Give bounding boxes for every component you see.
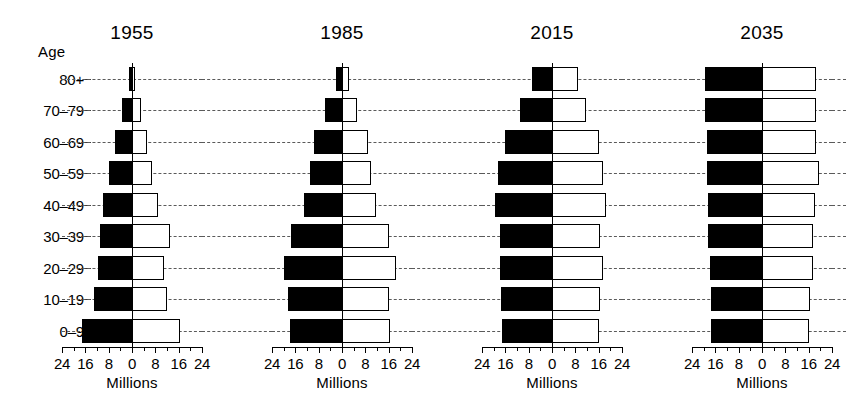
- x-axis-title: Millions: [482, 374, 622, 391]
- bar-male: [82, 319, 132, 343]
- bar-female: [762, 256, 813, 280]
- bar-male: [291, 224, 342, 248]
- x-tick-major: [739, 347, 740, 353]
- x-tick-minor: [330, 347, 331, 351]
- bar-male: [284, 256, 342, 280]
- bar-male: [708, 224, 762, 248]
- pyramid-panel-2015: 201524168081624Millions: [482, 0, 622, 409]
- bar-male: [498, 161, 552, 185]
- bar-female: [552, 98, 586, 122]
- bar-male: [500, 256, 553, 280]
- x-axis-title: Millions: [272, 374, 412, 391]
- x-tick-major: [319, 347, 320, 353]
- gridline-connector: [412, 268, 482, 269]
- gridline-connector: [202, 236, 272, 237]
- gridline-connector: [622, 110, 692, 111]
- x-tick-label: 16: [381, 355, 397, 372]
- x-tick-major: [202, 347, 203, 353]
- x-tick-major: [692, 347, 693, 353]
- x-tick-minor: [610, 347, 611, 351]
- gridline-connector: [832, 205, 846, 206]
- x-tick-label: 8: [525, 355, 533, 372]
- x-tick-minor: [820, 347, 821, 351]
- x-tick-major: [365, 347, 366, 353]
- bar-male: [708, 193, 762, 217]
- x-tick-label: 24: [684, 355, 700, 372]
- x-tick-label: 16: [287, 355, 303, 372]
- x-tick-label: 24: [474, 355, 490, 372]
- x-tick-major: [762, 347, 763, 353]
- bar-female: [132, 256, 164, 280]
- bar-female: [132, 130, 147, 154]
- x-tick-minor: [797, 347, 798, 351]
- bar-female: [342, 224, 389, 248]
- x-tick-major: [389, 347, 390, 353]
- gridline-connector: [622, 173, 692, 174]
- x-tick-minor: [74, 347, 75, 351]
- x-tick-minor: [727, 347, 728, 351]
- gridline-connector: [622, 268, 692, 269]
- x-tick-major: [412, 347, 413, 353]
- plot-area: [272, 0, 412, 349]
- x-tick-major: [155, 347, 156, 353]
- bar-male: [711, 287, 762, 311]
- bar-female: [552, 193, 606, 217]
- bar-male: [288, 287, 342, 311]
- bar-female: [342, 193, 376, 217]
- gridline-connector: [832, 268, 846, 269]
- bar-male: [532, 67, 552, 91]
- gridline-connector: [202, 268, 272, 269]
- x-tick-major: [529, 347, 530, 353]
- bar-female: [342, 130, 368, 154]
- gridline-connector: [832, 299, 846, 300]
- gridline-connector: [622, 331, 692, 332]
- x-tick-label: 16: [77, 355, 93, 372]
- gridline-connector: [202, 299, 272, 300]
- gridline-connector: [412, 110, 482, 111]
- gridline-connector: [412, 299, 482, 300]
- plot-area: [692, 0, 832, 349]
- x-tick-major: [575, 347, 576, 353]
- bar-female: [762, 161, 819, 185]
- bar-female: [132, 319, 180, 343]
- gridline-connector: [202, 173, 272, 174]
- bar-female: [552, 319, 599, 343]
- x-tick-minor: [517, 347, 518, 351]
- x-tick-minor: [120, 347, 121, 351]
- gridline-connector: [622, 79, 692, 80]
- gridline-connector: [412, 142, 482, 143]
- bar-female: [762, 98, 816, 122]
- bar-female: [132, 287, 167, 311]
- x-tick-major: [62, 347, 63, 353]
- x-tick-label: 0: [338, 355, 346, 372]
- x-tick-label: 8: [735, 355, 743, 372]
- x-tick-major: [179, 347, 180, 353]
- x-tick-major: [599, 347, 600, 353]
- x-tick-minor: [167, 347, 168, 351]
- bar-male: [304, 193, 342, 217]
- gridline-connector: [832, 173, 846, 174]
- bar-male: [711, 319, 762, 343]
- bar-female: [552, 67, 578, 91]
- bar-female: [552, 287, 600, 311]
- bar-female: [762, 319, 809, 343]
- bar-male: [705, 67, 762, 91]
- bar-female: [132, 224, 170, 248]
- bar-female: [762, 193, 815, 217]
- x-tick-minor: [774, 347, 775, 351]
- x-tick-label: 0: [548, 355, 556, 372]
- x-tick-label: 24: [404, 355, 420, 372]
- gridline-connector: [622, 236, 692, 237]
- gridline-connector: [202, 79, 272, 80]
- x-tick-label: 16: [707, 355, 723, 372]
- x-tick-major: [552, 347, 553, 353]
- x-tick-label: 8: [151, 355, 159, 372]
- x-tick-major: [132, 347, 133, 353]
- x-tick-label: 24: [264, 355, 280, 372]
- bar-male: [325, 98, 343, 122]
- pyramid-panel-1985: 198524168081624Millions: [272, 0, 412, 409]
- bar-male: [122, 98, 132, 122]
- x-tick-minor: [144, 347, 145, 351]
- x-tick-major: [272, 347, 273, 353]
- x-tick-minor: [494, 347, 495, 351]
